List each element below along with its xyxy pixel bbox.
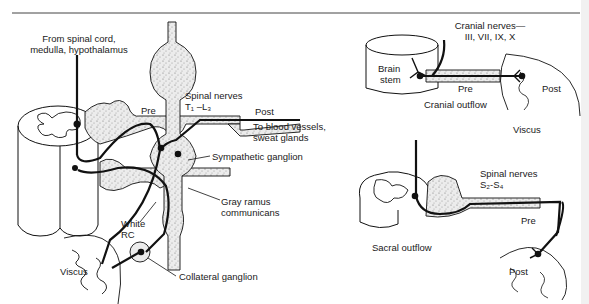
label-cranial-nerves-line1: Cranial nerves— bbox=[440, 20, 540, 31]
autonomic-outflow-diagram: From spinal cord, medulla, hypothalamus … bbox=[0, 0, 589, 304]
label-sympathetic-ganglion: Sympathetic ganglion bbox=[212, 151, 303, 162]
label-brain-line2: stem bbox=[380, 74, 401, 85]
label-sacral-outflow: Sacral outflow bbox=[372, 242, 432, 253]
brain-stem bbox=[366, 35, 438, 94]
label-spinal-levels-sacral: S₂-S₄ bbox=[480, 179, 503, 190]
label-viscus-sympathetic: Viscus bbox=[60, 266, 88, 277]
sympathetic-chain bbox=[150, 22, 196, 270]
label-pre-cranial: Pre bbox=[458, 83, 473, 94]
label-gray-ramus-line2: communicans bbox=[221, 207, 280, 218]
label-target-line2: sweat glands bbox=[253, 132, 308, 143]
label-spinal-nerves-thoracolumbar: Spinal nerves bbox=[185, 90, 243, 101]
label-source-line2: medulla, hypothalamus bbox=[24, 44, 134, 55]
label-target-line1: To blood vessels, bbox=[253, 121, 326, 132]
label-cranial-nerves-line2: III, VII, IX, X bbox=[440, 31, 540, 42]
label-cranial-outflow: Cranial outflow bbox=[424, 99, 487, 110]
label-white-rc-line1: White bbox=[121, 218, 145, 229]
label-source-line1: From spinal cord, bbox=[24, 33, 134, 44]
label-pre-sacral: Pre bbox=[521, 215, 536, 226]
page-edge-shadow bbox=[581, 0, 589, 304]
label-collateral-ganglion: Collateral ganglion bbox=[179, 271, 258, 282]
label-brain-line1: Brain bbox=[378, 63, 400, 74]
label-post-cranial: Post bbox=[542, 83, 561, 94]
label-viscus-cranial: Viscus bbox=[513, 124, 541, 135]
label-post-sympathetic: Post bbox=[255, 106, 274, 117]
label-gray-ramus-line1: Gray ramus bbox=[221, 196, 271, 207]
label-post-sacral: Post bbox=[509, 266, 528, 277]
sacral-cord bbox=[359, 172, 430, 228]
sympathetic-panel bbox=[18, 22, 300, 304]
label-spinal-levels-thoracolumbar: T₁ –L₃ bbox=[185, 101, 211, 112]
label-pre-sympathetic: Pre bbox=[141, 105, 156, 116]
label-spinal-nerves-sacral: Spinal nerves bbox=[480, 168, 538, 179]
label-white-rc-line2: RC bbox=[121, 229, 135, 240]
